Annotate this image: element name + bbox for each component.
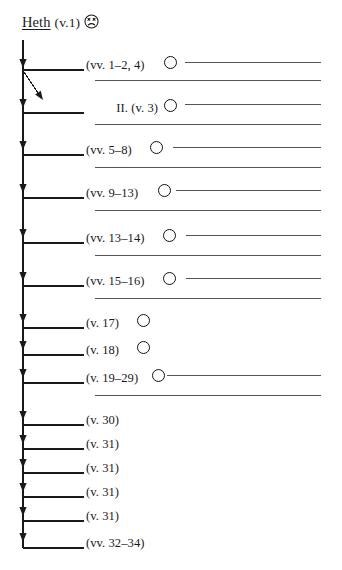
arrowhead-icon (19, 341, 26, 350)
verse-label: (vv. 15–16) (86, 275, 145, 288)
arrowhead-icon (19, 272, 26, 281)
arrowhead-icon (19, 314, 26, 323)
arrowhead-icon (19, 59, 26, 68)
arrowhead-icon (19, 184, 26, 193)
verse-label: II. (v. 3) (116, 102, 158, 115)
status-circle[interactable] (158, 184, 171, 197)
verse-label: (vv. 13–14) (86, 232, 145, 245)
verse-label: (vv. 32–34) (86, 537, 145, 550)
status-circle[interactable] (163, 229, 176, 242)
status-circle[interactable] (150, 141, 163, 154)
status-circle[interactable] (164, 56, 177, 69)
status-circle[interactable] (164, 99, 177, 112)
frowning-face-icon (84, 14, 99, 32)
status-circle[interactable] (152, 369, 165, 382)
status-circle[interactable] (163, 272, 176, 285)
arrowhead-icon (19, 411, 26, 420)
arrowhead-icon (19, 507, 26, 516)
arrowhead-icon (19, 483, 26, 492)
arrowhead-icon (19, 99, 26, 108)
diagonal-arrow-line (24, 72, 40, 96)
verse-label: (v. 19–29) (86, 372, 138, 385)
verse-label: (v. 18) (86, 344, 119, 357)
title-keyword: Heth (22, 14, 51, 30)
arrowhead-icon (19, 533, 26, 542)
diagram-title: Heth(v.1) (22, 14, 99, 32)
verse-label: (v. 17) (86, 317, 119, 330)
arrowhead-icon (19, 435, 26, 444)
arrowhead-icon (19, 369, 26, 378)
verse-label: (vv. 9–13) (86, 187, 138, 200)
diagonal-arrowhead-icon (35, 91, 43, 100)
verse-label: (v. 31) (86, 438, 119, 451)
verse-label: (v. 31) (86, 462, 119, 475)
diagram-lines (0, 0, 342, 570)
verse-label: (vv. 1–2, 4) (86, 59, 145, 72)
status-circle[interactable] (137, 314, 150, 327)
verse-label: (v. 31) (86, 486, 119, 499)
verse-label: (v. 31) (86, 510, 119, 523)
arrowhead-icon (19, 141, 26, 150)
verse-label: (vv. 5–8) (86, 144, 132, 157)
arrowhead-icon (19, 459, 26, 468)
verse-label: (v. 30) (86, 414, 119, 427)
title-verse-ref: (v.1) (55, 15, 81, 30)
status-circle[interactable] (137, 341, 150, 354)
diagram-canvas: Heth(v.1) (vv. 1–2, 4)II. (v. 3)(vv. 5–8… (0, 0, 342, 570)
arrowhead-icon (19, 229, 26, 238)
